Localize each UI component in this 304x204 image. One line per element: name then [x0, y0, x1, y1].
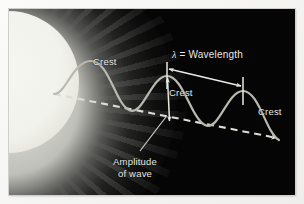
- label-amplitude-line-2: of wave: [113, 168, 157, 180]
- label-amplitude-line-1: Amplitude: [113, 156, 157, 168]
- label-amplitude-of-wave: Amplitude of wave: [113, 156, 157, 179]
- amplitude-leader-line: [140, 117, 166, 151]
- wave-diagram-figure: Crest Crest Crest λ = Wavelength Amplitu…: [0, 0, 304, 204]
- wavelength-double-arrow: [169, 69, 241, 86]
- label-crest-3: Crest: [258, 106, 282, 117]
- label-crest-1: Crest: [93, 56, 117, 67]
- label-crest-2: Crest: [169, 87, 193, 98]
- amplitude-double-arrow: [168, 78, 170, 121]
- label-wavelength: λ = Wavelength: [172, 49, 243, 60]
- diagram-panel: Crest Crest Crest λ = Wavelength Amplitu…: [9, 9, 295, 195]
- label-wavelength-text: = Wavelength: [177, 49, 243, 60]
